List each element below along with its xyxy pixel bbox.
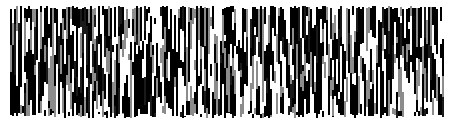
noise-pattern-image <box>0 0 452 124</box>
